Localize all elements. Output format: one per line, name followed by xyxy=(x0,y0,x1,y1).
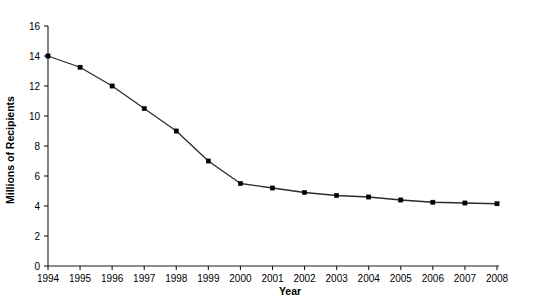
data-point-marker xyxy=(142,106,146,110)
chart-background xyxy=(0,0,536,299)
x-tick-label: 2007 xyxy=(454,273,477,284)
x-tick-label: 1996 xyxy=(101,273,124,284)
data-point-marker xyxy=(270,186,274,190)
x-axis-title: Year xyxy=(279,285,301,297)
x-tick-label: 1995 xyxy=(69,273,92,284)
data-point-marker xyxy=(431,200,435,204)
x-tick-label: 2002 xyxy=(293,273,316,284)
x-tick-label: 2008 xyxy=(486,273,509,284)
y-tick-label: 0 xyxy=(34,261,40,272)
data-point-marker xyxy=(302,190,306,194)
y-tick-label: 10 xyxy=(29,111,41,122)
y-tick-label: 4 xyxy=(34,201,40,212)
data-point-marker xyxy=(367,195,371,199)
data-point-marker xyxy=(46,54,50,58)
y-tick-label: 14 xyxy=(29,51,41,62)
x-tick-label: 1998 xyxy=(165,273,188,284)
data-point-marker xyxy=(463,201,467,205)
y-axis-title: Millions of Recipients xyxy=(4,96,16,204)
x-tick-label: 2001 xyxy=(261,273,284,284)
data-point-marker xyxy=(206,159,210,163)
y-tick-label: 12 xyxy=(29,81,41,92)
data-point-marker xyxy=(399,198,403,202)
y-tick-label: 6 xyxy=(34,171,40,182)
line-chart: 0246810121416 19941995199619971998199920… xyxy=(0,0,536,299)
data-point-marker xyxy=(110,84,114,88)
x-tick-label: 1994 xyxy=(37,273,60,284)
x-tick-label: 1999 xyxy=(197,273,220,284)
x-tick-label: 2003 xyxy=(326,273,349,284)
x-tick-label: 2004 xyxy=(358,273,381,284)
y-tick-label: 2 xyxy=(34,231,40,242)
x-tick-label: 2000 xyxy=(229,273,252,284)
data-point-marker xyxy=(174,129,178,133)
chart-canvas: 0246810121416 19941995199619971998199920… xyxy=(0,0,536,299)
x-tick-label: 2006 xyxy=(422,273,445,284)
x-tick-label: 1997 xyxy=(133,273,156,284)
x-tick-label: 2005 xyxy=(390,273,413,284)
data-point-marker xyxy=(495,202,499,206)
data-point-marker xyxy=(335,193,339,197)
data-point-marker xyxy=(238,181,242,185)
y-tick-label: 16 xyxy=(29,21,41,32)
data-point-marker xyxy=(78,65,82,69)
y-tick-label: 8 xyxy=(34,141,40,152)
